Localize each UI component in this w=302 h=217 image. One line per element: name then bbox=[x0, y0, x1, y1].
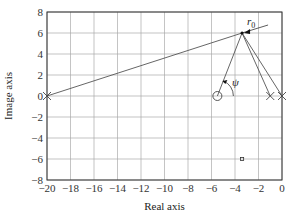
y-tick-label: 6 bbox=[38, 27, 44, 39]
angle-vector bbox=[47, 33, 242, 96]
r0-label: r0 bbox=[247, 15, 255, 30]
y-tick-label: −6 bbox=[31, 153, 43, 165]
y-tick-label: 8 bbox=[38, 6, 44, 18]
grid-lines bbox=[47, 12, 282, 180]
test-point-marker bbox=[240, 31, 243, 34]
x-axis-label: Real axis bbox=[144, 200, 185, 212]
x-tick-label: −8 bbox=[182, 182, 194, 194]
y-tick-label: −4 bbox=[31, 132, 43, 144]
y-tick-label: 4 bbox=[38, 48, 44, 60]
x-tick-label: −18 bbox=[62, 182, 80, 194]
x-tick-label: −6 bbox=[206, 182, 218, 194]
y-tick-labels: 86420−2−4−6−8 bbox=[31, 6, 43, 186]
y-tick-label: −2 bbox=[31, 111, 43, 123]
y-tick-label: −8 bbox=[31, 174, 43, 186]
psi-label: ψ bbox=[232, 76, 239, 88]
x-tick-label: −14 bbox=[109, 182, 127, 194]
y-tick-label: 0 bbox=[38, 90, 44, 102]
root-locus-chart: −20−18−16−14−12−10−8−6−4−20 86420−2−4−6−… bbox=[0, 0, 302, 217]
y-axis-label: Image axis bbox=[2, 72, 14, 120]
x-tick-label: −4 bbox=[229, 182, 241, 194]
x-tick-label: −10 bbox=[156, 182, 174, 194]
x-tick-label: −12 bbox=[132, 182, 149, 194]
angle-vector bbox=[242, 33, 270, 96]
x-tick-label: −16 bbox=[85, 182, 103, 194]
x-tick-labels: −20−18−16−14−12−10−8−6−4−20 bbox=[38, 182, 285, 194]
x-tick-label: 0 bbox=[279, 182, 285, 194]
y-tick-label: 2 bbox=[38, 69, 44, 81]
x-tick-label: −2 bbox=[253, 182, 265, 194]
angle-vector bbox=[242, 33, 282, 96]
